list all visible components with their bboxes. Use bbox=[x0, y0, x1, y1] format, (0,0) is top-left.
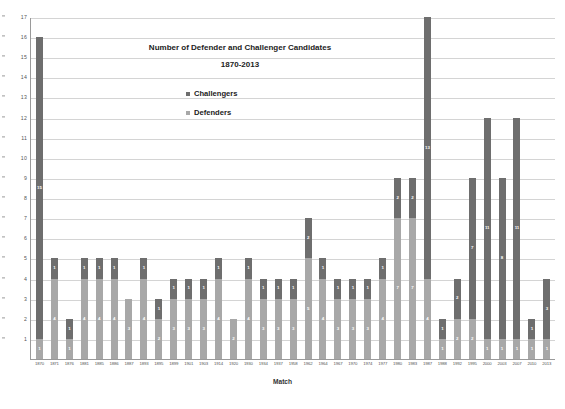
bar-segment-defenders[interactable]: 4 bbox=[81, 279, 88, 359]
bar-column[interactable]: 151 bbox=[32, 18, 47, 359]
bar-segment-challengers[interactable]: 2 bbox=[305, 218, 312, 258]
bar-column[interactable]: 11 bbox=[62, 18, 77, 359]
bar-column[interactable]: 22 bbox=[450, 18, 465, 359]
bar-segment-challengers[interactable]: 3 bbox=[543, 279, 550, 339]
bar-column[interactable]: 13 bbox=[286, 18, 301, 359]
bar-segment-challengers[interactable]: 1 bbox=[111, 258, 118, 278]
bar-segment-defenders[interactable]: 5 bbox=[305, 258, 312, 359]
bar-column[interactable]: 13 bbox=[256, 18, 271, 359]
bar-column[interactable]: 111 bbox=[510, 18, 525, 359]
bar-segment-challengers[interactable]: 1 bbox=[364, 279, 371, 299]
bar-segment-challengers[interactable]: 1 bbox=[379, 258, 386, 278]
bar-segment-defenders[interactable]: 4 bbox=[379, 279, 386, 359]
bar-segment-defenders[interactable]: 2 bbox=[469, 319, 476, 359]
bar-segment-defenders[interactable]: 3 bbox=[125, 299, 132, 359]
bar-column[interactable]: 13 bbox=[345, 18, 360, 359]
bar-segment-challengers[interactable]: 1 bbox=[170, 279, 177, 299]
bar-segment-defenders[interactable]: 1 bbox=[439, 339, 446, 359]
bar-column[interactable]: 11 bbox=[524, 18, 539, 359]
bar-segment-defenders[interactable]: 3 bbox=[290, 299, 297, 359]
bar-segment-defenders[interactable]: 4 bbox=[111, 279, 118, 359]
bar-column[interactable]: 14 bbox=[211, 18, 226, 359]
bar-segment-defenders[interactable]: 3 bbox=[364, 299, 371, 359]
bar-segment-challengers[interactable]: 15 bbox=[36, 37, 43, 339]
bar-column[interactable]: 14 bbox=[107, 18, 122, 359]
bar-segment-challengers[interactable]: 11 bbox=[513, 118, 520, 339]
bar-segment-challengers[interactable]: 1 bbox=[528, 319, 535, 339]
bar-column[interactable]: 3 bbox=[122, 18, 137, 359]
bar-segment-defenders[interactable]: 4 bbox=[51, 279, 58, 359]
bar-segment-challengers[interactable]: 1 bbox=[334, 279, 341, 299]
bar-segment-defenders[interactable]: 3 bbox=[185, 299, 192, 359]
bar-segment-defenders[interactable]: 3 bbox=[334, 299, 341, 359]
bar-column[interactable]: 31 bbox=[539, 18, 554, 359]
bar-segment-defenders[interactable]: 4 bbox=[319, 279, 326, 359]
bar-segment-challengers[interactable]: 1 bbox=[215, 258, 222, 278]
bar-segment-defenders[interactable]: 4 bbox=[96, 279, 103, 359]
bar-segment-challengers[interactable]: 13 bbox=[424, 17, 431, 279]
bar-segment-challengers[interactable]: 1 bbox=[260, 279, 267, 299]
bar-segment-defenders[interactable]: 1 bbox=[543, 339, 550, 359]
bar-column[interactable]: 14 bbox=[316, 18, 331, 359]
bar-column[interactable]: 25 bbox=[301, 18, 316, 359]
bar-column[interactable]: 14 bbox=[77, 18, 92, 359]
bar-segment-challengers[interactable]: 8 bbox=[499, 178, 506, 339]
bar-segment-defenders[interactable]: 3 bbox=[260, 299, 267, 359]
bar-column[interactable]: 27 bbox=[390, 18, 405, 359]
bar-segment-challengers[interactable]: 1 bbox=[439, 319, 446, 339]
bar-segment-defenders[interactable]: 4 bbox=[140, 279, 147, 359]
bar-segment-challengers[interactable]: 1 bbox=[319, 258, 326, 278]
bar-column[interactable]: 11 bbox=[435, 18, 450, 359]
bar-segment-defenders[interactable]: 1 bbox=[36, 339, 43, 359]
bar-segment-challengers[interactable]: 1 bbox=[349, 279, 356, 299]
bar-segment-defenders[interactable]: 3 bbox=[349, 299, 356, 359]
bar-segment-challengers[interactable]: 1 bbox=[290, 279, 297, 299]
bar-segment-challengers[interactable]: 2 bbox=[394, 178, 401, 218]
bar-segment-defenders[interactable]: 3 bbox=[200, 299, 207, 359]
bar-column[interactable]: 72 bbox=[465, 18, 480, 359]
bar-segment-challengers[interactable]: 1 bbox=[81, 258, 88, 278]
bar-segment-challengers[interactable]: 1 bbox=[245, 258, 252, 278]
bar-segment-challengers[interactable]: 7 bbox=[469, 178, 476, 319]
bar-segment-challengers[interactable]: 2 bbox=[409, 178, 416, 218]
bar-segment-defenders[interactable]: 4 bbox=[215, 279, 222, 359]
bar-segment-defenders[interactable]: 3 bbox=[275, 299, 282, 359]
bar-segment-defenders[interactable]: 7 bbox=[409, 218, 416, 359]
bar-segment-defenders[interactable]: 2 bbox=[230, 319, 237, 359]
bar-segment-defenders[interactable]: 1 bbox=[484, 339, 491, 359]
bar-segment-defenders[interactable]: 3 bbox=[170, 299, 177, 359]
bar-column[interactable]: 14 bbox=[375, 18, 390, 359]
bar-column[interactable]: 134 bbox=[420, 18, 435, 359]
bar-column[interactable]: 13 bbox=[271, 18, 286, 359]
bar-column[interactable]: 14 bbox=[92, 18, 107, 359]
bar-column[interactable]: 81 bbox=[495, 18, 510, 359]
bar-segment-challengers[interactable]: 1 bbox=[185, 279, 192, 299]
bar-column[interactable]: 13 bbox=[166, 18, 181, 359]
bar-segment-challengers[interactable]: 1 bbox=[155, 299, 162, 319]
bar-column[interactable]: 27 bbox=[405, 18, 420, 359]
bar-segment-defenders[interactable]: 1 bbox=[513, 339, 520, 359]
bar-segment-defenders[interactable]: 1 bbox=[528, 339, 535, 359]
bar-column[interactable]: 14 bbox=[241, 18, 256, 359]
bar-segment-challengers[interactable]: 11 bbox=[484, 118, 491, 339]
bar-column[interactable]: 13 bbox=[360, 18, 375, 359]
bar-segment-defenders[interactable]: 2 bbox=[155, 319, 162, 359]
bar-segment-challengers[interactable]: 1 bbox=[96, 258, 103, 278]
bar-segment-challengers[interactable]: 1 bbox=[140, 258, 147, 278]
bar-column[interactable]: 13 bbox=[181, 18, 196, 359]
bar-segment-defenders[interactable]: 7 bbox=[394, 218, 401, 359]
bar-segment-challengers[interactable]: 2 bbox=[454, 279, 461, 319]
bar-segment-defenders[interactable]: 4 bbox=[245, 279, 252, 359]
bar-column[interactable]: 12 bbox=[151, 18, 166, 359]
bar-column[interactable]: 111 bbox=[480, 18, 495, 359]
bar-segment-defenders[interactable]: 1 bbox=[66, 339, 73, 359]
bar-segment-challengers[interactable]: 1 bbox=[51, 258, 58, 278]
bar-column[interactable]: 14 bbox=[136, 18, 151, 359]
bar-column[interactable]: 2 bbox=[226, 18, 241, 359]
bar-column[interactable]: 14 bbox=[47, 18, 62, 359]
bar-column[interactable]: 13 bbox=[196, 18, 211, 359]
bar-segment-challengers[interactable]: 1 bbox=[200, 279, 207, 299]
bar-segment-challengers[interactable]: 1 bbox=[66, 319, 73, 339]
bar-column[interactable]: 13 bbox=[330, 18, 345, 359]
bar-segment-challengers[interactable]: 1 bbox=[275, 279, 282, 299]
